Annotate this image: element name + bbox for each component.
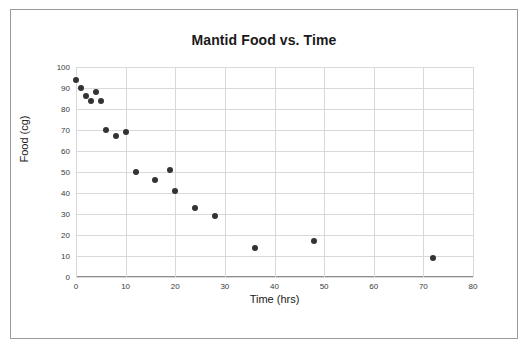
y-tick-label: 50 [61,168,70,177]
x-tick-label: 10 [121,282,130,291]
scatter-data-point [192,205,198,211]
x-tick-label: 40 [270,282,279,291]
scatter-data-point [212,213,218,219]
x-tick-label: 0 [74,282,78,291]
scatter-data-point [88,98,94,104]
scatter-data-point [133,169,139,175]
scatter-data-point [311,238,317,244]
scatter-data-point [113,133,119,139]
scatter-data-point [152,177,158,183]
scatter-data-point [252,245,258,251]
y-tick-label: 100 [57,63,70,72]
y-tick-label: 60 [61,147,70,156]
x-tick-label: 30 [220,282,229,291]
scatter-data-point [103,127,109,133]
x-tick-label: 50 [320,282,329,291]
y-tick-label: 70 [61,126,70,135]
y-tick-label: 80 [61,105,70,114]
chart-figure-frame: Mantid Food vs. Time 0102030405060708090… [10,9,518,339]
y-tick-label: 90 [61,84,70,93]
chart-title: Mantid Food vs. Time [11,32,517,48]
gridline-vertical [374,67,375,277]
gridline-vertical [423,67,424,277]
scatter-data-point [430,255,436,261]
gridline-vertical [275,67,276,277]
gridline-vertical [473,67,474,277]
x-tick-label: 60 [369,282,378,291]
x-tick-label: 80 [469,282,478,291]
x-tick-label: 70 [419,282,428,291]
gridline-vertical [76,67,77,277]
scatter-data-point [73,77,79,83]
x-axis-title: Time (hrs) [76,293,473,305]
scatter-data-point [98,98,104,104]
y-tick-label: 30 [61,210,70,219]
gridline-vertical [175,67,176,277]
gridline-vertical [126,67,127,277]
y-tick-label: 0 [66,273,70,282]
gridline-vertical [324,67,325,277]
y-tick-label: 40 [61,189,70,198]
y-tick-label: 10 [61,252,70,261]
scatter-data-point [123,129,129,135]
y-tick-label: 20 [61,231,70,240]
x-tick-label: 20 [171,282,180,291]
scatter-data-point [93,89,99,95]
plot-area: 0102030405060708090100 01020304050607080 [76,67,473,277]
scatter-data-point [78,85,84,91]
gridline-horizontal [76,277,473,278]
gridline-vertical [225,67,226,277]
y-axis-title: Food (cg) [18,79,30,199]
